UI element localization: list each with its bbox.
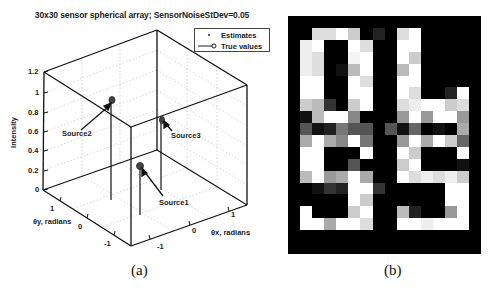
pixel-cell (445, 76, 457, 88)
z-tick-label: 1.2 (28, 67, 38, 76)
pixel-cell (385, 64, 397, 76)
pixel-cell (457, 40, 469, 52)
pixel-cell (433, 123, 445, 135)
pixel-cell (300, 111, 312, 123)
legend: Estimates True values (194, 28, 270, 52)
pixel-cell (373, 194, 385, 206)
pixel-cell (312, 40, 324, 52)
pixel-cell (421, 206, 433, 218)
source-markers (109, 97, 165, 170)
pixel-cell (421, 147, 433, 159)
pixel-cell (445, 40, 457, 52)
pixel-cell (312, 135, 324, 147)
pixel-cell (409, 99, 421, 111)
pixel-cell (421, 28, 433, 40)
pixel-cell (324, 52, 336, 64)
pixel-cell (336, 147, 348, 159)
pixel-cell (300, 171, 312, 183)
pixel-cell (445, 123, 457, 135)
pixel-cell (421, 87, 433, 99)
pixel-cell (300, 28, 312, 40)
pixel-cell (300, 183, 312, 195)
pixel-cell (385, 87, 397, 99)
pixel-cell (300, 40, 312, 52)
z-tick-label: 0 (35, 185, 39, 194)
pixel-cell (421, 123, 433, 135)
pixel-cell (445, 218, 457, 230)
pixel-cell (373, 230, 385, 242)
pixel-cell (373, 159, 385, 171)
pixel-cell (300, 87, 312, 99)
pixel-cell (421, 230, 433, 242)
dot-marker-icon (195, 30, 221, 41)
pixel-cell (409, 87, 421, 99)
y-tick-label: -1 (104, 239, 111, 248)
pixel-cell (373, 87, 385, 99)
pixel-cell (385, 40, 397, 52)
pixel-cell (397, 230, 409, 242)
pixel-cell (312, 76, 324, 88)
pixel-cell (336, 111, 348, 123)
pixel-cell (397, 218, 409, 230)
pixel-cell (373, 183, 385, 195)
source2-label: Source2 (62, 129, 92, 138)
pixel-cell (421, 99, 433, 111)
pixel-cell (421, 218, 433, 230)
pixel-cell (409, 123, 421, 135)
pixel-cell (312, 87, 324, 99)
pixel-cell (445, 206, 457, 218)
pixel-cell (300, 123, 312, 135)
pixel-cell (312, 111, 324, 123)
pixel-cell (457, 123, 469, 135)
pixel-cell (336, 87, 348, 99)
pixel-cell (373, 218, 385, 230)
pixel-cell (336, 52, 348, 64)
pixel-cell (457, 194, 469, 206)
pixel-cell (324, 194, 336, 206)
pixel-cell (300, 64, 312, 76)
legend-item-true-values: True values (195, 41, 269, 52)
pixel-cell (445, 64, 457, 76)
pixel-cell (312, 194, 324, 206)
pixel-cell (312, 64, 324, 76)
pixel-cell (409, 194, 421, 206)
pixel-cell (397, 111, 409, 123)
pixel-cell (336, 194, 348, 206)
pixel-cell (348, 123, 360, 135)
pixel-cell (360, 230, 372, 242)
y-tick-label: 0 (78, 222, 82, 231)
z-axis-label: Intensity (9, 117, 18, 148)
pixel-cell (409, 28, 421, 40)
pixel-cell (360, 147, 372, 159)
pixel-cell (360, 206, 372, 218)
pixel-cell (336, 99, 348, 111)
pixel-cell (324, 147, 336, 159)
pixel-cell (433, 206, 445, 218)
pixel-cell (409, 111, 421, 123)
pixel-cell (445, 171, 457, 183)
pixel-cell (336, 206, 348, 218)
pixel-cell (409, 206, 421, 218)
pixel-cell (373, 64, 385, 76)
pixel-cell (336, 159, 348, 171)
pixel-cell (385, 111, 397, 123)
pixel-cell (433, 52, 445, 64)
pixel-cell (385, 183, 397, 195)
pixel-cell (385, 159, 397, 171)
pixel-cell (445, 28, 457, 40)
pixel-cell (360, 99, 372, 111)
pixel-cell (360, 135, 372, 147)
pixel-cell (457, 218, 469, 230)
pixel-cell (348, 76, 360, 88)
pixel-cell (457, 171, 469, 183)
pixel-cell (348, 135, 360, 147)
pixel-cell (421, 40, 433, 52)
pixel-cell (409, 76, 421, 88)
pixel-cell (312, 218, 324, 230)
pixel-cell (397, 76, 409, 88)
caption-b: (b) (384, 262, 402, 279)
pixel-cell (421, 171, 433, 183)
pixel-cell (421, 159, 433, 171)
pixel-cell (300, 206, 312, 218)
pixel-cell (433, 194, 445, 206)
